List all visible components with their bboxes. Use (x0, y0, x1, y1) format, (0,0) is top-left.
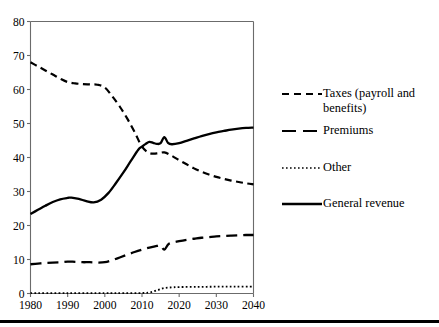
figure-container: 0102030405060708019801990200020102020203… (0, 0, 439, 327)
legend-swatch-dotted-icon (281, 165, 323, 179)
y-tick-label: 80 (13, 16, 25, 29)
y-tick-label: 60 (13, 84, 25, 97)
legend-swatch-dashed-icon (281, 91, 323, 105)
legend-label-general-revenue: General revenue (323, 196, 405, 211)
legend-item-other[interactable]: Other (281, 160, 351, 179)
series-line-premiums (31, 235, 254, 264)
x-tick-label: 2000 (93, 299, 116, 312)
x-tick-label: 2030 (205, 299, 228, 312)
x-tick-label: 1990 (56, 299, 79, 312)
y-tick-label: 10 (13, 254, 25, 267)
x-tick-label: 2010 (130, 299, 153, 312)
series-line-other (31, 287, 254, 294)
legend-swatch-long-dashed-icon (281, 128, 323, 142)
legend-label-premiums: Premiums (323, 123, 373, 138)
series-line-general-revenue (31, 128, 254, 214)
legend-item-general-revenue[interactable]: General revenue (281, 196, 405, 215)
chart-tick-labels: 0102030405060708019801990200020102020203… (13, 16, 265, 312)
x-tick-label: 1980 (19, 299, 42, 312)
legend-item-taxes[interactable]: Taxes (payroll and benefits) (281, 86, 415, 115)
legend-label-other: Other (323, 160, 351, 175)
y-tick-label: 30 (13, 186, 25, 199)
x-tick-label: 2040 (242, 299, 265, 312)
bottom-divider (0, 320, 439, 323)
x-tick-label: 2020 (168, 299, 191, 312)
y-tick-label: 70 (13, 50, 25, 63)
legend-item-premiums[interactable]: Premiums (281, 123, 373, 142)
y-tick-label: 50 (13, 118, 25, 131)
legend-swatch-solid-icon (281, 201, 323, 215)
series-line-taxes-payroll-and-benefits (31, 62, 254, 184)
line-chart: 0102030405060708019801990200020102020203… (0, 0, 439, 327)
legend-label-taxes: Taxes (payroll and benefits) (323, 86, 415, 115)
chart-axes (27, 22, 254, 298)
y-tick-label: 20 (13, 220, 25, 233)
y-tick-label: 40 (13, 152, 25, 165)
chart-series (31, 62, 254, 293)
